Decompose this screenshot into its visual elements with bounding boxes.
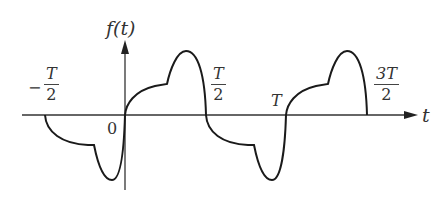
- tick-denominator: 2: [213, 85, 223, 103]
- tick-numerator: 3T: [374, 66, 399, 84]
- tick-label-neg-half-period: T 2: [44, 66, 59, 103]
- tick-denominator: 2: [46, 85, 56, 103]
- x-axis-label: t: [422, 106, 430, 125]
- tick-denominator: 2: [381, 85, 391, 103]
- tick-label-period: T: [271, 93, 282, 109]
- tick-numerator: T: [44, 66, 59, 84]
- origin-label: 0: [107, 121, 117, 137]
- waveform-diagram: f(t) t 0 − T 2 T 2 T 3T 2: [0, 0, 448, 200]
- tick-sign-neg-half-period: −: [28, 78, 41, 97]
- tick-label-three-half-period: 3T 2: [374, 66, 399, 103]
- y-axis-label: f(t): [106, 19, 136, 38]
- x-axis-arrow-icon: [404, 111, 418, 119]
- y-axis-arrow-icon: [121, 40, 129, 54]
- tick-numerator: T: [211, 66, 226, 84]
- tick-label-half-period: T 2: [211, 66, 226, 103]
